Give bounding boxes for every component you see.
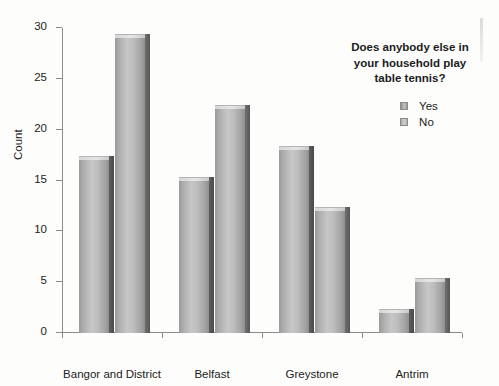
bar-side-shadow — [345, 207, 350, 333]
bar-yes — [79, 160, 109, 333]
bar-side-shadow — [245, 105, 250, 333]
legend-label: Yes — [419, 100, 438, 112]
legend-label: No — [419, 116, 434, 128]
category-label: Greystone — [285, 368, 338, 380]
scan-artifact — [480, 18, 483, 62]
bar-side-shadow — [145, 34, 150, 333]
category-label: Belfast — [194, 368, 229, 380]
y-axis-tick-label: 30 — [34, 21, 47, 33]
bar-side-shadow — [409, 309, 414, 333]
x-axis-tick — [262, 333, 263, 338]
legend-title-line: Does anybody else in — [330, 40, 490, 56]
y-axis-tick: 30 — [56, 27, 62, 28]
bar-yes — [279, 150, 309, 333]
bar-top-cap — [415, 278, 445, 282]
y-axis-tick: 25 — [56, 78, 62, 79]
bar-top-cap — [315, 207, 345, 211]
x-axis-tick — [462, 333, 463, 338]
y-axis-tick-label: 10 — [34, 225, 47, 237]
legend-title-line: table tennis? — [330, 71, 490, 87]
bar-top-cap — [115, 34, 145, 38]
x-axis-tick — [62, 333, 63, 338]
legend-item-yes: Yes — [400, 100, 438, 112]
legend-title: Does anybody else in your household play… — [330, 40, 490, 87]
bar-no — [315, 211, 345, 333]
y-axis-tick-label: 20 — [34, 123, 47, 135]
bar-top-cap — [215, 105, 245, 109]
x-axis-tick — [162, 333, 163, 338]
bar-side-shadow — [309, 146, 314, 333]
bar-top-cap — [79, 156, 109, 160]
legend-swatch-icon — [400, 102, 408, 110]
y-axis-tick: 20 — [56, 129, 62, 130]
bar-no — [115, 38, 145, 333]
y-axis-tick: 5 — [56, 281, 62, 282]
legend: Does anybody else in your household play… — [330, 40, 490, 132]
bar-chart: Count 051015202530 Bangor and DistrictBe… — [0, 0, 499, 386]
bar-yes — [379, 313, 409, 333]
y-axis-tick: 10 — [56, 230, 62, 231]
legend-title-line: your household play — [330, 56, 490, 72]
y-axis-tick-label: 5 — [41, 275, 47, 287]
bar-top-cap — [379, 309, 409, 313]
y-axis-line — [62, 28, 63, 333]
y-axis-tick-label: 15 — [34, 174, 47, 186]
y-axis-tick: 15 — [56, 180, 62, 181]
bar-no — [415, 282, 445, 333]
legend-items: Yes No — [382, 96, 438, 132]
legend-swatch-icon — [400, 118, 408, 126]
bar-top-cap — [179, 177, 209, 181]
bar-top-cap — [279, 146, 309, 150]
category-label: Bangor and District — [63, 368, 161, 380]
y-axis-tick-label: 0 — [41, 326, 47, 338]
category-label: Antrim — [395, 368, 428, 380]
bar-side-shadow — [445, 278, 450, 333]
y-axis-title: Count — [12, 129, 24, 160]
bar-no — [215, 109, 245, 333]
bar-side-shadow — [109, 156, 114, 333]
y-axis-tick-label: 25 — [34, 72, 47, 84]
bar-side-shadow — [209, 177, 214, 334]
x-axis-tick — [362, 333, 363, 338]
legend-item-no: No — [400, 116, 438, 128]
bar-yes — [179, 181, 209, 334]
